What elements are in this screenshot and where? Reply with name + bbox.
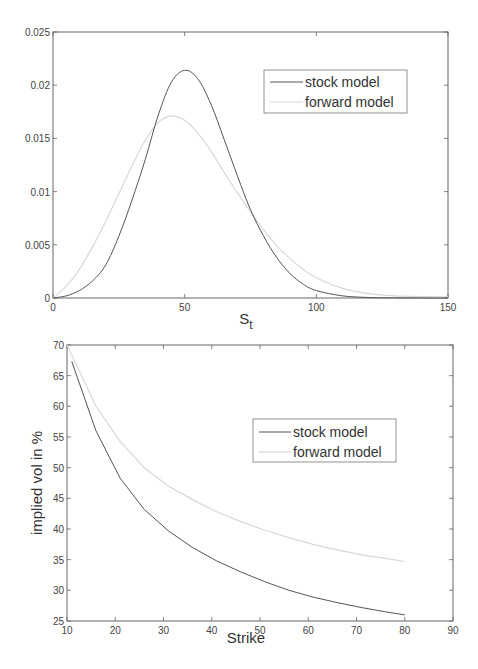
y-axis-label: implied vol in % bbox=[28, 431, 45, 535]
y-tick-label: 0.015 bbox=[25, 133, 50, 144]
legend-label-forward: forward model bbox=[305, 94, 394, 110]
axis-ticks: 10203040506070809025303540455055606570 bbox=[53, 340, 459, 636]
x-tick-label: 150 bbox=[440, 302, 457, 313]
y-tick-label: 50 bbox=[53, 463, 65, 474]
x-tick-label: 30 bbox=[158, 625, 170, 636]
y-tick-label: 55 bbox=[53, 432, 65, 443]
y-tick-label: 0.01 bbox=[31, 187, 51, 198]
y-tick-label: 0.025 bbox=[25, 27, 50, 38]
figure: 05010015000.0050.010.0150.020.025 St sto… bbox=[0, 0, 478, 669]
y-tick-label: 45 bbox=[53, 493, 65, 504]
implied-vol-chart: 10203040506070809025303540455055606570 S… bbox=[28, 340, 459, 646]
stock-model-line bbox=[72, 362, 405, 615]
x-tick-label: 90 bbox=[447, 625, 459, 636]
legend: stock model forward model bbox=[253, 419, 396, 462]
y-tick-label: 25 bbox=[53, 616, 65, 627]
y-tick-label: 70 bbox=[53, 340, 65, 351]
x-axis-label: St bbox=[239, 310, 253, 332]
x-tick-label: 0 bbox=[50, 302, 56, 313]
data-lines bbox=[67, 345, 405, 615]
x-tick-label: 60 bbox=[303, 625, 315, 636]
forward-model-line bbox=[53, 116, 448, 298]
density-chart: 05010015000.0050.010.0150.020.025 St sto… bbox=[25, 27, 457, 332]
y-tick-label: 40 bbox=[53, 524, 65, 535]
x-tick-label: 70 bbox=[351, 625, 363, 636]
x-axis-label: Strike bbox=[227, 629, 265, 646]
legend-label-stock: stock model bbox=[305, 74, 380, 90]
x-tick-label: 20 bbox=[110, 625, 122, 636]
x-tick-label: 100 bbox=[308, 302, 325, 313]
x-tick-label: 80 bbox=[399, 625, 411, 636]
y-tick-label: 30 bbox=[53, 585, 65, 596]
x-tick-label: 40 bbox=[206, 625, 218, 636]
y-tick-label: 0.02 bbox=[31, 80, 51, 91]
legend: stock model forward model bbox=[264, 70, 407, 113]
legend-label-forward: forward model bbox=[293, 444, 382, 460]
x-tick-label: 50 bbox=[179, 302, 191, 313]
y-tick-label: 35 bbox=[53, 555, 65, 566]
legend-label-stock: stock model bbox=[293, 424, 368, 440]
y-tick-label: 0.005 bbox=[25, 240, 50, 251]
y-tick-label: 65 bbox=[53, 371, 65, 382]
y-tick-label: 60 bbox=[53, 401, 65, 412]
y-tick-label: 0 bbox=[44, 293, 50, 304]
